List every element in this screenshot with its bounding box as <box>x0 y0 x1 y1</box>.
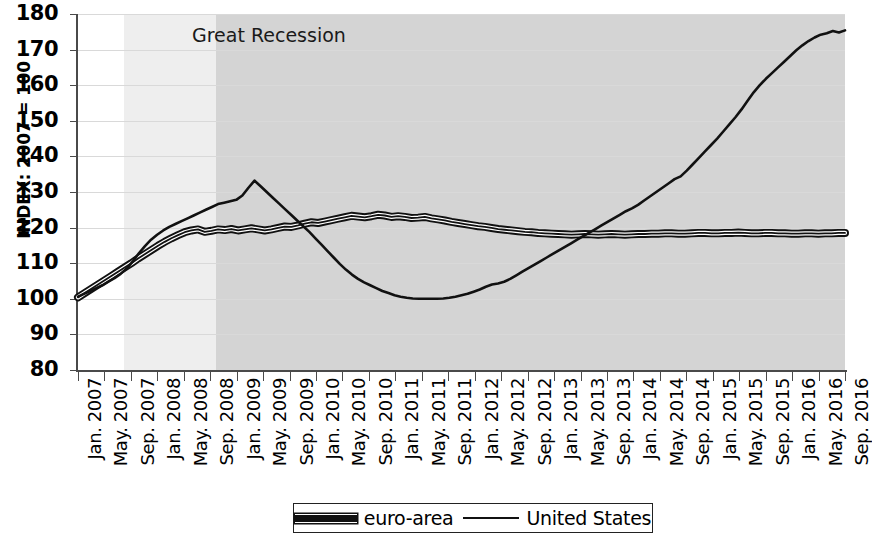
y-tick-label: 170 <box>14 39 58 60</box>
x-tick-label: Jan. 2012 <box>483 378 501 488</box>
x-tick-label: Sep. 2015 <box>774 378 792 488</box>
x-tick-label: May. 2008 <box>192 378 210 488</box>
y-tick-label: 140 <box>14 145 58 166</box>
x-tick-label: Jan. 2014 <box>641 378 659 488</box>
x-tick-label: Jan. 2007 <box>86 378 104 488</box>
x-tick-label: Sep. 2013 <box>615 378 633 488</box>
y-tick-label: 100 <box>14 288 58 309</box>
legend-label-united-states: United States <box>526 507 651 529</box>
y-tick-label: 150 <box>14 110 58 131</box>
x-tick-label: May. 2013 <box>589 378 607 488</box>
y-tick-label: 80 <box>14 359 58 380</box>
x-tick-label: Sep. 2007 <box>139 378 157 488</box>
legend-item-euro-area: euro-area <box>295 507 454 529</box>
x-tick-label: Sep. 2012 <box>536 378 554 488</box>
thick-line-swatch-icon <box>295 514 357 523</box>
x-tick-label: May. 2009 <box>271 378 289 488</box>
y-tick-label: 130 <box>14 181 58 202</box>
x-tick-label: May. 2007 <box>112 378 130 488</box>
chart-legend: euro-area United States <box>293 503 653 533</box>
x-tick-label: Sep. 2014 <box>694 378 712 488</box>
x-tick-label: Jan. 2013 <box>562 378 580 488</box>
x-tick-label: May. 2011 <box>430 378 448 488</box>
united-states-line <box>78 30 845 298</box>
series-lines <box>0 0 856 400</box>
y-tick-label: 120 <box>14 217 58 238</box>
y-tick-label: 160 <box>14 74 58 95</box>
x-tick-label: May. 2015 <box>747 378 765 488</box>
x-tick-label: Sep. 2011 <box>456 378 474 488</box>
x-tick-label: Sep. 2009 <box>298 378 316 488</box>
x-axis-tick-labels: Jan. 2007May. 2007Sep. 2007Jan. 2008May.… <box>0 378 856 488</box>
x-tick-label: May. 2014 <box>668 378 686 488</box>
y-tick-label: 180 <box>14 3 58 24</box>
plot-area: Great Recession <box>0 0 856 400</box>
x-tick-label: Jan. 2015 <box>721 378 739 488</box>
legend-label-euro-area: euro-area <box>364 507 454 529</box>
y-axis-tick-labels: 1801701601501401301201101009080 <box>12 0 58 400</box>
x-tick-label: Jan. 2009 <box>245 378 263 488</box>
x-tick-label: Jan. 2011 <box>403 378 421 488</box>
y-tick-label: 90 <box>14 323 58 344</box>
x-tick-label: Jan. 2008 <box>165 378 183 488</box>
x-tick-label: Sep. 2008 <box>218 378 236 488</box>
x-tick-label: Jan. 2010 <box>324 378 342 488</box>
thin-line-swatch-icon <box>463 517 519 520</box>
x-tick-label: May. 2012 <box>509 378 527 488</box>
x-tick-label: Sep. 2016 <box>853 378 871 488</box>
x-tick-label: Jan. 2016 <box>800 378 818 488</box>
x-tick-label: Sep. 2010 <box>377 378 395 488</box>
x-tick-label: May. 2016 <box>827 378 845 488</box>
euro-area-line-outer <box>78 215 845 298</box>
legend-item-united-states: United States <box>463 507 651 529</box>
x-tick-label: May. 2010 <box>350 378 368 488</box>
y-tick-label: 110 <box>14 252 58 273</box>
